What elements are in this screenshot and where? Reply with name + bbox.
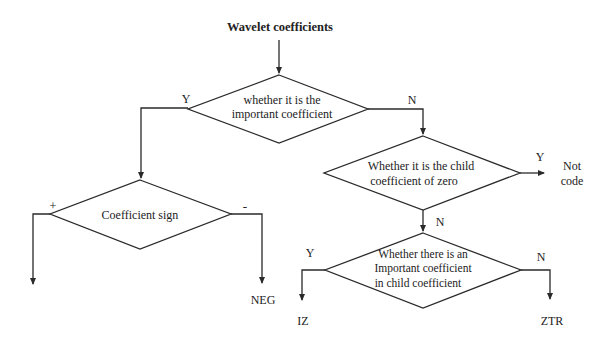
start-label: Wavelet coefficients — [227, 20, 333, 34]
d3-line-2: coefficient of zero — [370, 174, 458, 188]
output-not-code-line-1: Not — [563, 159, 582, 173]
output-neg: NEG — [251, 293, 276, 307]
d2-plus-label: + — [49, 198, 56, 213]
arrow-d1-yes — [141, 108, 188, 178]
d4-yes-label: Y — [306, 246, 315, 260]
d1-no-label: N — [408, 93, 417, 107]
d3-no-label: N — [436, 215, 445, 229]
d4-line-3: in child coefficient — [375, 277, 462, 289]
d3-yes-label: Y — [536, 150, 545, 164]
arrow-d1-no — [368, 109, 423, 134]
flowchart-canvas: Wavelet coefficients whether it is the i… — [0, 0, 612, 344]
arrow-d2-minus — [231, 214, 262, 283]
d2-line-1: Coefficient sign — [102, 208, 179, 222]
decision-important-coefficient: whether it is the important coefficient — [188, 75, 368, 143]
d3-line-1: Whether it is the child — [368, 159, 475, 173]
arrow-d4-no — [521, 270, 550, 299]
arrow-d4-yes — [302, 270, 325, 300]
d1-line-1: whether it is the — [244, 93, 321, 107]
decision-child-of-zero: Whether it is the child coefficient of z… — [324, 136, 520, 210]
d4-line-1: Whether there is an — [378, 248, 468, 260]
d4-line-2: Important coefficient — [374, 262, 472, 275]
d2-minus-label: - — [243, 199, 247, 214]
d4-no-label: N — [537, 250, 546, 264]
decision-coefficient-sign: Coefficient sign — [50, 180, 231, 249]
d1-yes-label: Y — [182, 92, 191, 106]
output-iz: IZ — [297, 314, 308, 328]
d1-line-2: important coefficient — [232, 107, 333, 121]
decision-important-in-child: Whether there is an Important coefficien… — [325, 233, 521, 308]
arrow-d2-plus — [33, 214, 50, 284]
output-not-code-line-2: code — [561, 174, 584, 188]
output-ztr: ZTR — [541, 314, 564, 328]
